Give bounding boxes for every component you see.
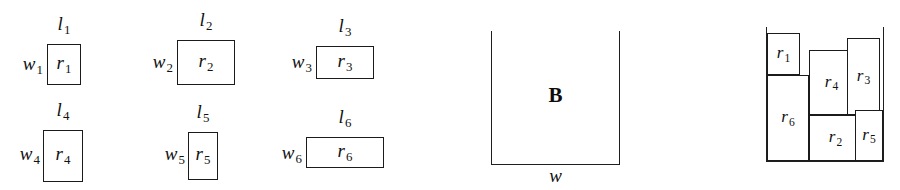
packed-rect-r5: r5: [855, 110, 883, 161]
packing-group: r1 r6 r4 r3 r2 r5: [0, 0, 900, 190]
packed-rect-r6-name: r6: [768, 108, 808, 128]
packed-rect-r3: r3: [847, 38, 880, 115]
packed-rect-r5-name: r5: [856, 125, 882, 145]
bin-packing-figure: l1 w1 r1 l2 w2 r2: [0, 0, 900, 190]
packed-rect-r2-name: r2: [810, 128, 861, 148]
packed-rect-r3-name: r3: [848, 66, 879, 86]
packed-rect-r6: r6: [767, 75, 809, 161]
packing-wall-right: [883, 27, 884, 162]
packed-rect-r1-name: r1: [768, 44, 799, 64]
packed-rect-r1: r1: [767, 33, 800, 75]
packing-floor: [766, 161, 884, 162]
